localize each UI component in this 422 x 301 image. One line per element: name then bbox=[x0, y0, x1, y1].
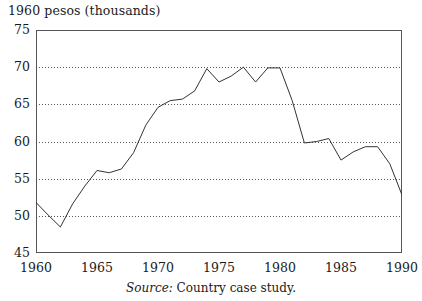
plot-area bbox=[36, 30, 402, 253]
y-tick-label: 55 bbox=[6, 173, 30, 186]
y-tick-label: 75 bbox=[6, 24, 30, 37]
x-axis-tick-labels: 1960196519701975198019851990 bbox=[36, 262, 402, 278]
x-tick-label: 1970 bbox=[142, 262, 174, 275]
x-tick-label: 1990 bbox=[386, 262, 418, 275]
line-chart-svg bbox=[36, 30, 402, 253]
y-tick-label: 65 bbox=[6, 98, 30, 111]
x-tick-label: 1960 bbox=[20, 262, 52, 275]
source-label: Source: bbox=[126, 281, 173, 295]
y-tick-label: 45 bbox=[6, 247, 30, 260]
y-axis-tick-labels: 45505560657075 bbox=[0, 30, 30, 253]
y-tick-label: 50 bbox=[6, 210, 30, 223]
x-tick-label: 1980 bbox=[264, 262, 296, 275]
x-tick-label: 1985 bbox=[325, 262, 357, 275]
x-tick-label: 1975 bbox=[203, 262, 235, 275]
data-series-line bbox=[36, 67, 402, 227]
gridlines bbox=[36, 68, 402, 217]
source-text: Country case study. bbox=[173, 281, 296, 295]
plot-border bbox=[37, 31, 402, 253]
source-caption: Source: Country case study. bbox=[0, 281, 422, 295]
y-tick-label: 70 bbox=[6, 61, 30, 74]
y-axis-title: 1960 pesos (thousands) bbox=[8, 3, 160, 18]
y-tick-label: 60 bbox=[6, 136, 30, 149]
x-tick-label: 1965 bbox=[81, 262, 113, 275]
figure: 1960 pesos (thousands) 45505560657075 19… bbox=[0, 0, 422, 301]
